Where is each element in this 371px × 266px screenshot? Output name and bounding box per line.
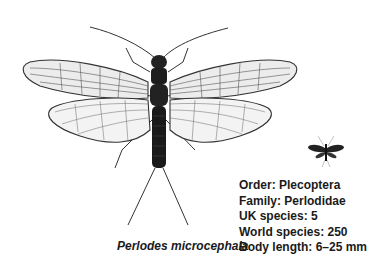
- fact-uk-species: UK species: 5: [239, 209, 367, 225]
- species-name-caption: Perlodes microcephala: [117, 239, 248, 253]
- fact-family: Family: Perlodidae: [239, 194, 367, 210]
- fact-order: Order: Plecoptera: [239, 178, 367, 194]
- fact-world-species: World species: 250: [239, 225, 367, 241]
- species-facts: Order: Plecoptera Family: Perlodidae UK …: [239, 178, 367, 256]
- actual-size-silhouette-icon: [306, 134, 346, 168]
- fact-body-length: Body length: 6–25 mm: [239, 240, 367, 256]
